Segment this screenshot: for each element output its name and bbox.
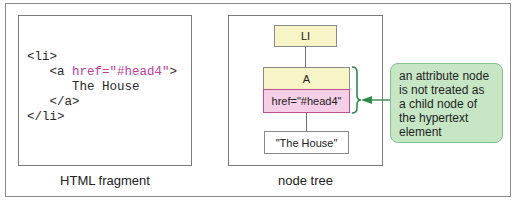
curly-brace-icon — [352, 67, 361, 113]
arrowhead-icon — [361, 96, 372, 104]
callout-note: an attribute node is not treated as a ch… — [390, 63, 503, 143]
